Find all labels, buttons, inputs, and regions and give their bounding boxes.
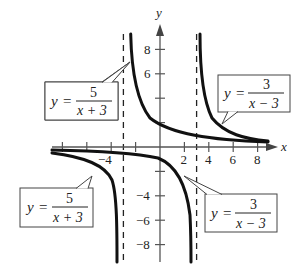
svg-text:5: 5: [90, 85, 97, 100]
x-tick-label: 8: [254, 152, 261, 167]
svg-text:x − 3: x − 3: [235, 216, 266, 231]
x-axis: x −4 2 4 6 8: [52, 139, 287, 167]
y-axis-arrow-icon: [156, 24, 164, 36]
chart-svg: x −4 2 4 6 8 y 8 6 −4 −6 −8: [0, 0, 294, 274]
label-upper-left: y = 5 x + 3: [45, 62, 130, 120]
y-axis: y 8 6 −4 −6 −8: [136, 5, 165, 262]
svg-text:3: 3: [263, 77, 270, 92]
y-tick-label: −6: [136, 213, 150, 228]
svg-text:x + 3: x + 3: [76, 103, 107, 118]
label-lower-left: y = 5 x + 3: [20, 176, 93, 227]
x-tick-label: 4: [205, 152, 212, 167]
svg-text:x + 3: x + 3: [52, 210, 83, 225]
svg-text:y: y: [222, 85, 231, 101]
svg-text:=: =: [223, 205, 231, 221]
svg-text:y: y: [209, 205, 218, 221]
label-lower-right: y = 3 x − 3: [184, 176, 277, 232]
svg-text:=: =: [63, 93, 71, 109]
x-axis-label: x: [280, 139, 287, 154]
y-tick-label: 8: [144, 42, 151, 57]
x-tick-label: 6: [230, 152, 237, 167]
x-tick-label: 2: [181, 152, 188, 167]
svg-text:5: 5: [66, 191, 73, 206]
label-upper-right: y = 3 x − 3: [218, 75, 290, 124]
x-axis-arrow-icon: [266, 143, 278, 151]
y-axis-label: y: [154, 5, 162, 20]
svg-text:=: =: [39, 199, 47, 215]
y-tick-label: 6: [144, 66, 151, 81]
svg-text:=: =: [236, 85, 244, 101]
y-tick-label: −8: [136, 237, 150, 252]
svg-text:y: y: [49, 93, 58, 109]
svg-text:y: y: [25, 199, 34, 215]
x-tick-label: −4: [98, 152, 112, 167]
chart-figure: x −4 2 4 6 8 y 8 6 −4 −6 −8: [0, 0, 294, 274]
svg-text:x − 3: x − 3: [248, 96, 279, 111]
svg-text:3: 3: [250, 197, 257, 212]
y-tick-label: −4: [136, 188, 150, 203]
